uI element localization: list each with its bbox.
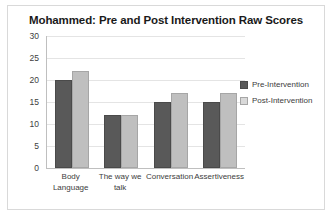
- bar-post-intervention[interactable]: [121, 115, 138, 168]
- chart-title: Mohammed: Pre and Post Intervention Raw …: [8, 14, 324, 26]
- y-axis-tick: 10: [30, 119, 39, 129]
- bar-group: [196, 36, 246, 168]
- y-axis: 30 25 20 15 10 5 0: [20, 36, 42, 168]
- legend-swatch-icon: [240, 81, 248, 89]
- legend-label: Post-Intervention: [252, 96, 312, 105]
- plot-area: [46, 36, 245, 169]
- x-axis-tick-label: The way we talk: [95, 172, 144, 193]
- bar-pre-intervention[interactable]: [154, 102, 171, 168]
- bar-pre-intervention[interactable]: [104, 115, 121, 168]
- bar-post-intervention[interactable]: [220, 93, 237, 168]
- legend-item-post-intervention[interactable]: Post-Intervention: [240, 96, 332, 105]
- legend-label: Pre-Intervention: [252, 80, 309, 89]
- plot-wrapper: 30 25 20 15 10 5 0: [20, 36, 314, 204]
- bar-post-intervention[interactable]: [72, 71, 89, 168]
- x-axis: Body Language The way we talk Conversati…: [46, 172, 244, 193]
- x-axis-tick-label: Assertiveness: [194, 172, 244, 193]
- bar-group: [146, 36, 196, 168]
- x-axis-tick-label: Body Language: [46, 172, 95, 193]
- legend-swatch-icon: [240, 97, 248, 105]
- bars-layer: [47, 36, 245, 168]
- y-axis-tick: 5: [34, 141, 39, 151]
- x-axis-tick-label: Conversation: [145, 172, 194, 193]
- y-axis-tick: 25: [30, 53, 39, 63]
- bar-group: [47, 36, 97, 168]
- y-axis-tick: 0: [34, 163, 39, 173]
- legend-item-pre-intervention[interactable]: Pre-Intervention: [240, 80, 332, 89]
- bar-pre-intervention[interactable]: [55, 80, 72, 168]
- y-axis-tick: 20: [30, 75, 39, 85]
- bar-group: [97, 36, 147, 168]
- chart-container: Mohammed: Pre and Post Intervention Raw …: [7, 5, 325, 210]
- bar-post-intervention[interactable]: [171, 93, 188, 168]
- bar-pre-intervention[interactable]: [203, 102, 220, 168]
- y-axis-tick: 15: [30, 97, 39, 107]
- y-axis-tick: 30: [30, 31, 39, 41]
- chart-legend: Pre-Intervention Post-Intervention: [240, 80, 332, 112]
